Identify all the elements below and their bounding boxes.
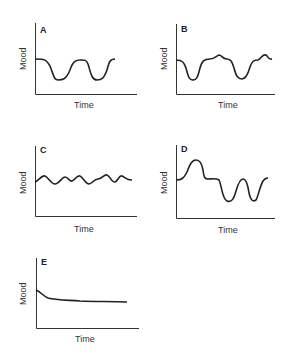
- panel-b-xlabel: Time: [218, 100, 238, 110]
- panel-b-letter: B: [181, 24, 188, 34]
- panel-b: B Mood Time: [159, 24, 275, 110]
- panel-e-ylabel: Mood: [18, 282, 28, 305]
- panel-c-curve: [35, 175, 132, 184]
- panel-a-axes: [36, 23, 138, 95]
- panel-d-curve: [176, 160, 268, 201]
- panel-c-ylabel: Mood: [18, 171, 28, 194]
- panel-d-ylabel: Mood: [159, 171, 169, 194]
- panel-a-letter: A: [40, 25, 47, 35]
- panel-b-curve: [176, 55, 272, 80]
- panel-c-letter: C: [40, 145, 47, 155]
- panel-c-xlabel: Time: [74, 224, 94, 234]
- panel-a: A Mood Time: [18, 23, 137, 110]
- panel-e-letter: E: [41, 257, 47, 267]
- panel-e: E Mood Time: [18, 257, 139, 344]
- mood-pattern-figure: A Mood Time B Mood Time C Mood Time D Mo…: [0, 0, 297, 354]
- panel-a-xlabel: Time: [74, 100, 94, 110]
- panel-a-ylabel: Mood: [18, 47, 28, 70]
- panel-d-letter: D: [181, 144, 188, 154]
- panel-d: D Mood Time: [159, 144, 275, 235]
- panel-e-xlabel: Time: [75, 334, 95, 344]
- panel-a-curve: [35, 59, 115, 80]
- panel-d-axes: [177, 145, 276, 219]
- panel-c: C Mood Time: [18, 145, 137, 234]
- panel-b-ylabel: Mood: [159, 47, 169, 70]
- panel-d-xlabel: Time: [218, 225, 238, 235]
- panel-e-axes: [37, 258, 140, 329]
- panel-e-curve: [36, 290, 127, 302]
